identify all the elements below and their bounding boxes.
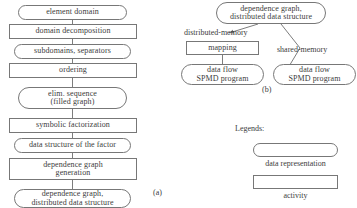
node-data-structure-of-the-factor[interactable]: data structure of the factor <box>14 138 131 153</box>
connector-b-1 <box>222 55 223 64</box>
node-ordering[interactable]: ordering <box>9 63 137 78</box>
edge-label-distributed-memory: distributed-memory <box>184 28 248 37</box>
connector-a-8 <box>72 180 73 189</box>
node-subdomains-separators[interactable]: subdomains, separators <box>14 44 131 59</box>
edge-label-shared-memory: shared-memory <box>277 45 327 54</box>
node-elim-sequence[interactable]: elim. sequence (filled graph) <box>18 87 127 109</box>
connector-a-5 <box>72 109 73 118</box>
caption-b: (b) <box>262 85 271 94</box>
legend-shape-data-representation <box>253 143 338 157</box>
legends-title: Legends: <box>235 124 264 133</box>
figure-canvas: element domain domain decomposition subd… <box>0 0 357 208</box>
node-domain-decomposition[interactable]: domain decomposition <box>9 24 137 39</box>
legend-shape-activity <box>253 175 338 189</box>
node-element-domain[interactable]: element domain <box>18 5 127 20</box>
legend-caption-activity: activity <box>253 191 338 200</box>
legend-caption-data-representation: data representation <box>253 159 338 168</box>
connector-a-4 <box>72 78 73 87</box>
node-data-flow-spmd-left[interactable]: data flow SPMD program <box>181 64 264 85</box>
node-dependence-graph-generation[interactable]: dependence graph generation <box>9 158 137 180</box>
caption-a: (a) <box>153 188 162 197</box>
node-mapping[interactable]: mapping <box>186 41 259 55</box>
node-dependence-graph-distributed-b[interactable]: dependence graph, distributed data struc… <box>216 2 326 24</box>
node-symbolic-factorization[interactable]: symbolic factorization <box>9 118 137 133</box>
node-data-flow-spmd-right[interactable]: data flow SPMD program <box>273 64 356 85</box>
node-dependence-graph-distributed-a[interactable]: dependence graph, distributed data struc… <box>14 189 131 208</box>
